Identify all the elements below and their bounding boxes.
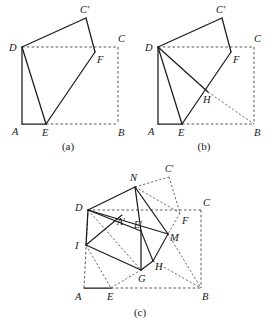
label-b-H: H bbox=[202, 94, 212, 105]
label-b-E: E bbox=[177, 127, 185, 138]
figure-b-caption: (b) bbox=[136, 140, 272, 152]
figure-panel-b: A B C D E F H C′ (b) bbox=[136, 0, 272, 165]
edge-Cprime-F bbox=[169, 177, 180, 213]
label-c-Aprime: A′ bbox=[116, 217, 126, 227]
edge-F-M bbox=[168, 213, 180, 234]
figure-c-caption: (c) bbox=[56, 306, 224, 318]
edge-E-F bbox=[182, 52, 231, 124]
edge-D-Cprime bbox=[158, 18, 222, 47]
label-b-C: C bbox=[254, 33, 262, 44]
figure-panel-c: A B C D E F G H I M N A′ E′ C′ (c) bbox=[56, 158, 224, 331]
edge-H-B bbox=[208, 92, 254, 124]
label-c-E: E bbox=[106, 291, 114, 302]
figure-c-canvas: A B C D E F G H I M N A′ E′ C′ bbox=[56, 158, 224, 308]
edge-D-N bbox=[88, 187, 135, 210]
geometry-figure-sheet: A B C D E F C′ (a) bbox=[0, 0, 272, 331]
label-a-E: E bbox=[41, 127, 49, 138]
label-c-M: M bbox=[169, 232, 180, 243]
label-c-Eprime: E′ bbox=[133, 220, 143, 230]
edge-D-E bbox=[22, 47, 46, 124]
edge-Eprime-H bbox=[141, 231, 153, 261]
edge-E-F bbox=[46, 52, 95, 124]
edge-I-G bbox=[86, 245, 141, 270]
edge-D-I bbox=[86, 210, 88, 245]
label-a-Cprime: C′ bbox=[80, 4, 90, 15]
edge-E-G bbox=[111, 270, 141, 288]
label-c-N: N bbox=[129, 172, 138, 183]
label-a-A: A bbox=[11, 126, 19, 137]
label-b-F: F bbox=[232, 54, 240, 65]
label-c-G: G bbox=[138, 273, 146, 284]
label-a-F: F bbox=[96, 54, 104, 65]
label-c-I: I bbox=[74, 240, 79, 251]
edge-D-G bbox=[88, 210, 141, 270]
figure-b-solid-edges bbox=[158, 18, 231, 124]
edge-I-E bbox=[86, 245, 111, 288]
label-b-B: B bbox=[254, 127, 261, 138]
label-a-B: B bbox=[118, 127, 125, 138]
label-a-C: C bbox=[118, 33, 126, 44]
label-b-Cprime: C′ bbox=[216, 4, 226, 15]
figure-a-dashed-edges bbox=[22, 47, 118, 124]
label-c-H: H bbox=[154, 261, 164, 272]
label-c-B: B bbox=[202, 291, 209, 302]
label-c-C: C bbox=[203, 197, 211, 208]
label-c-Cprime: C′ bbox=[165, 164, 174, 174]
figure-panel-a: A B C D E F C′ (a) bbox=[0, 0, 136, 165]
figure-b-canvas: A B C D E F H C′ bbox=[136, 0, 272, 145]
figure-c-solid-edges bbox=[84, 187, 168, 288]
figure-a-canvas: A B C D E F C′ bbox=[0, 0, 136, 145]
label-c-D: D bbox=[74, 202, 83, 213]
label-a-D: D bbox=[8, 42, 17, 53]
figure-a-caption: (a) bbox=[0, 140, 136, 152]
edge-N-Cprime bbox=[135, 177, 169, 187]
label-b-A: A bbox=[147, 126, 155, 137]
edge-D-Cprime bbox=[22, 18, 86, 47]
label-c-A: A bbox=[74, 291, 82, 302]
edge-G-H bbox=[141, 261, 153, 270]
label-c-F: F bbox=[181, 215, 189, 226]
edge-H-M bbox=[153, 234, 168, 261]
figure-b-dashed-edges bbox=[158, 47, 254, 124]
edge-D-Aprime-M bbox=[88, 210, 168, 234]
label-b-D: D bbox=[144, 42, 153, 53]
figure-a-solid-edges bbox=[22, 18, 95, 124]
